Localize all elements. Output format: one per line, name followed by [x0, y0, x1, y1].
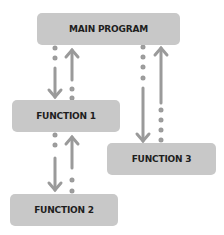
- node-label: FUNCTION 3: [132, 154, 192, 164]
- node-main-program: MAIN PROGRAM: [37, 13, 180, 45]
- node-label: MAIN PROGRAM: [69, 24, 148, 34]
- node-label: FUNCTION 1: [36, 111, 96, 121]
- arrow-main-to-function3: [137, 46, 149, 141]
- node-function-2: FUNCTION 2: [10, 194, 118, 226]
- arrow-function1-to-function2: [49, 134, 61, 190]
- arrow-function3-to-main: [155, 48, 167, 141]
- arrow-function1-to-main: [66, 50, 78, 99]
- node-label: FUNCTION 2: [34, 205, 94, 215]
- node-function-3: FUNCTION 3: [107, 143, 216, 175]
- arrow-function2-to-function1: [66, 137, 78, 192]
- node-function-1: FUNCTION 1: [12, 100, 120, 132]
- arrow-main-to-function1: [49, 47, 61, 97]
